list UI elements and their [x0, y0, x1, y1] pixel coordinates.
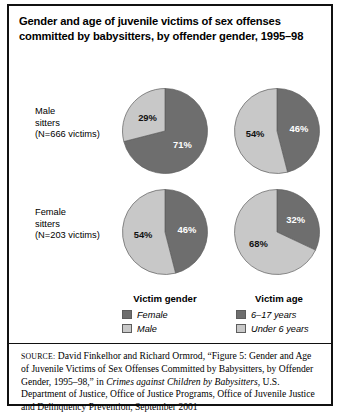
pie-slice-value-label: 46%	[290, 123, 309, 134]
source-note: SOURCE: David Finkelhor and Richard Ormr…	[21, 350, 321, 413]
figure-frame: Gender and age of juvenile victims of se…	[7, 4, 333, 406]
legend-victim-gender: Female Male	[122, 308, 168, 336]
page-title: Gender and age of juvenile victims of se…	[19, 14, 321, 43]
source-label: SOURCE:	[21, 352, 55, 361]
pie-slice-value-label: 46%	[178, 224, 197, 235]
legend-swatch-male	[122, 324, 132, 333]
legend-swatch-6-17-years	[236, 310, 246, 319]
legend-label-under-6-years: Under 6 years	[251, 324, 309, 334]
pie-slice-value-label: 68%	[249, 238, 268, 249]
legend-label-6-17-years: 6–17 years	[251, 310, 296, 320]
pie-slice-value-label: 54%	[246, 128, 265, 139]
legend-item: 6–17 years	[236, 308, 309, 321]
pie-slice-value-label: 32%	[286, 214, 305, 225]
legend-victim-age: 6–17 years Under 6 years	[236, 308, 309, 336]
pie-chart-male-sitters-victim-gender: 71%29%	[121, 87, 209, 175]
column-header-victim-age: Victim age	[219, 293, 339, 304]
pie-slice-value-label: 29%	[138, 112, 157, 123]
pie-chart-female-sitters-victim-gender: 46%54%	[121, 188, 209, 276]
row-label-male-sitters: Malesitters(N=666 victims)	[35, 106, 127, 141]
pie-chart-male-sitters-victim-age: 46%54%	[233, 87, 321, 175]
source-text-italic: Crimes against Children by Babysitters	[106, 376, 258, 387]
legend-item: Male	[122, 322, 168, 335]
legend-label-male: Male	[137, 324, 157, 334]
legend-item: Under 6 years	[236, 322, 309, 335]
row-label-female-sitters: Femalesitters(N=203 victims)	[35, 207, 127, 242]
pie-slice-value-label: 71%	[173, 139, 192, 150]
pie-chart-female-sitters-victim-age: 32%68%	[233, 188, 321, 276]
legend-item: Female	[122, 308, 168, 321]
divider	[9, 343, 331, 344]
legend-label-female: Female	[137, 310, 168, 320]
legend-swatch-female	[122, 310, 132, 319]
legend-swatch-under-6-years	[236, 324, 246, 333]
pie-slice-value-label: 54%	[134, 229, 153, 240]
column-header-victim-gender: Victim gender	[105, 293, 225, 304]
